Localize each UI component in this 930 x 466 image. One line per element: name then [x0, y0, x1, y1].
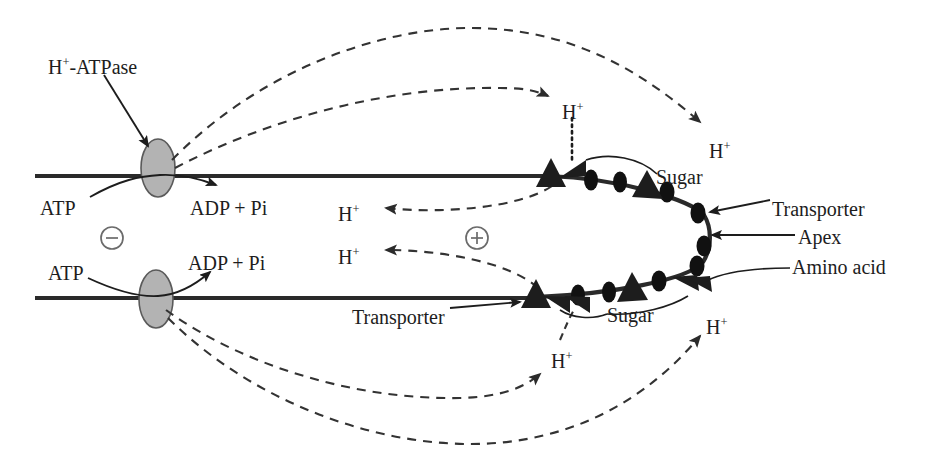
- positive-charge: [466, 227, 488, 249]
- h-plus-left-lower: H+: [338, 246, 359, 269]
- label-h-atpase: H+-ATPase: [48, 56, 137, 79]
- label-apex: Apex: [798, 226, 841, 249]
- label-sugar-bottom: Sugar: [607, 304, 654, 327]
- proton-arc-inner-top: [175, 88, 548, 168]
- proton-arc-outer-bottom: [168, 318, 700, 444]
- proton-arc-recirculation-upper: [386, 186, 552, 210]
- label-transporter-bottom: Transporter: [352, 306, 445, 329]
- h-plus-outer-bottom: H+: [706, 316, 727, 339]
- proton-charge: +: [565, 349, 572, 363]
- label-adp-bottom: ADP + Pi: [188, 252, 265, 275]
- proton-symbol: H: [338, 203, 352, 225]
- h-plus-inner-bottom: H+: [551, 350, 572, 373]
- h-atpase-pointer-arrow: [104, 75, 148, 146]
- proton-charge: +: [723, 139, 730, 153]
- negative-charge: [101, 227, 123, 249]
- proton-symbol: H: [551, 350, 565, 372]
- proton-symbol: H: [562, 101, 576, 123]
- diagram-vector-layer: [0, 0, 930, 466]
- proton-charge: +: [720, 315, 727, 329]
- proton-charge: +: [576, 100, 583, 114]
- label-atp-top: ATP: [40, 197, 76, 220]
- label-amino-acid: Amino acid: [792, 256, 886, 279]
- label-sugar-top: Sugar: [656, 166, 703, 189]
- h-plus-outer-top: H+: [709, 140, 730, 163]
- amino-acid-pointer-curve: [706, 268, 790, 281]
- diagram-canvas: H+-ATPase ATP ADP + Pi ATP ADP + Pi Suga…: [0, 0, 930, 466]
- label-transporter-right: Transporter: [772, 198, 865, 221]
- label-atp-bottom: ATP: [48, 262, 84, 285]
- transporter-bottom-pointer-arrow: [450, 302, 520, 308]
- proton-arc-recirculation-lower: [386, 250, 538, 288]
- h-plus-inner-top: H+: [562, 101, 583, 124]
- proton-arc-outer-top: [172, 28, 700, 160]
- proton-charge: +: [352, 202, 359, 216]
- proton-symbol: H: [338, 246, 352, 268]
- proton-symbol: H: [709, 140, 723, 162]
- proton-charge: +: [352, 245, 359, 259]
- label-adp-top: ADP + Pi: [190, 197, 267, 220]
- proton-symbol: H: [706, 316, 720, 338]
- h-atpase-pump-upper: [141, 139, 175, 197]
- transporter-pointer-arrow: [710, 200, 770, 212]
- h-plus-left-upper: H+: [338, 203, 359, 226]
